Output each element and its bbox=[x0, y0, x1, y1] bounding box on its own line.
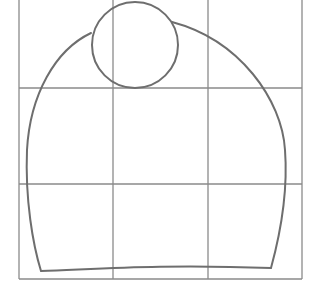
figure bbox=[27, 2, 286, 271]
sketch-canvas bbox=[0, 0, 317, 291]
dome-outline bbox=[27, 22, 286, 271]
head-circle bbox=[92, 2, 178, 88]
grid bbox=[19, 0, 302, 279]
